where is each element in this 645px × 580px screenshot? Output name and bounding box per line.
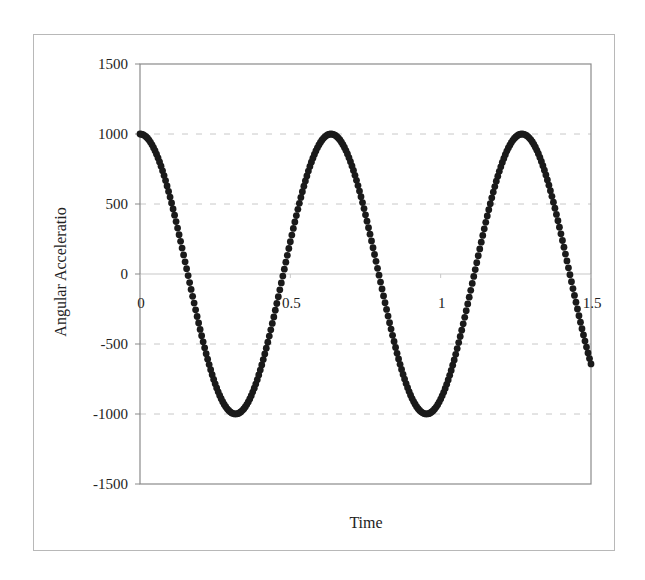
y-axis-ticks: 150010005000-500-1000-1500 (93, 56, 140, 492)
y-tick-label: 0 (121, 266, 129, 282)
y-tick-label: 500 (106, 196, 129, 212)
x-tick-label: 0.5 (282, 295, 301, 311)
x-tick-label: 1.5 (583, 295, 602, 311)
y-tick-label: -500 (101, 336, 129, 352)
x-tick-label: 0 (137, 295, 145, 311)
y-tick-label: -1500 (93, 476, 128, 492)
x-axis-ticks: 00.511.5 (137, 274, 601, 311)
y-tick-label: 1000 (98, 126, 128, 142)
x-axis-title: Time (349, 514, 382, 531)
y-axis-title: Angular Acceleratio (52, 207, 70, 336)
x-tick-label: 1 (438, 295, 446, 311)
chart-canvas: 00.511.5 150010005000-500-1000-1500 Time… (0, 0, 645, 580)
y-tick-label: 1500 (98, 56, 128, 72)
y-tick-label: -1000 (93, 406, 128, 422)
